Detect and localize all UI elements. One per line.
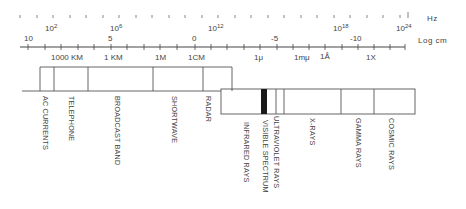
band-label-infrared: INFRARED RAYS — [243, 122, 250, 182]
wavelength-marker: 1000 KM — [51, 54, 83, 62]
hz-tick-label: 106 — [110, 23, 122, 33]
band-label-telephone: TELEPHONE — [68, 96, 75, 141]
wavelength-marker: 1μ — [254, 54, 263, 62]
logcm-tick-label: 0 — [192, 35, 196, 43]
wavelength-marker: 1Å — [320, 53, 330, 61]
wavelength-axis — [20, 44, 405, 50]
hz-tick-label: 1024 — [396, 23, 412, 33]
hz-tick-label: 1012 — [208, 23, 224, 33]
band-label-visible: VISIBLE SPECTRUM — [262, 120, 269, 193]
wavelength-marker: 1X — [366, 54, 376, 62]
band-label-broadcast: BROADCAST BAND — [114, 96, 121, 165]
wavelength-marker: 1 KM — [104, 54, 123, 62]
radio-bands-box — [40, 67, 232, 91]
hz-tick-label: 1018 — [333, 23, 349, 33]
frequency-axis — [20, 12, 408, 18]
visible-spectrum-band — [261, 89, 267, 114]
em-spectrum-diagram: 102 106 1012 1018 1024 Hz 10 5 0 -5 -10 … — [0, 0, 466, 209]
hz-tick-label: 102 — [45, 23, 57, 33]
band-label-cosmic: COSMIC RAYS — [388, 118, 395, 170]
wavelength-marker: 1mμ — [294, 54, 310, 62]
high-energy-bands-box — [221, 89, 415, 114]
logcm-tick-label: 5 — [108, 35, 112, 43]
band-label-ac-currents: AC CURRENTS — [42, 96, 49, 150]
hz-unit-label: Hz — [427, 15, 438, 23]
band-label-ultraviolet: ULTRAVIOLET RAYS — [273, 116, 280, 188]
wavelength-marker: 1CM — [188, 54, 205, 62]
wavelength-marker: 1M — [155, 54, 166, 62]
logcm-tick-label: 10 — [24, 35, 33, 43]
band-label-xrays: X-RAYS — [309, 118, 316, 145]
band-label-shortwave: SHORTWAVE — [171, 96, 178, 143]
logcm-tick-label: -10 — [350, 35, 362, 43]
logcm-unit-label: Log cm — [418, 37, 447, 45]
band-label-radar: RADAR — [205, 96, 212, 122]
band-label-gamma: GAMMA RAYS — [355, 118, 362, 168]
logcm-tick-label: -5 — [271, 35, 278, 43]
